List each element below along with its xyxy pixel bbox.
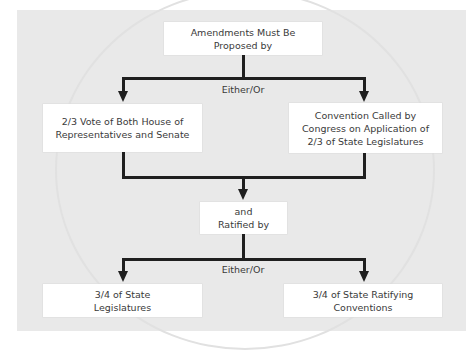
convention-called-box: Convention Called by Congress on Applica… bbox=[289, 103, 442, 153]
congress-vote-text: 2/3 Vote of Both House of Representative… bbox=[56, 115, 190, 141]
arrow-down-icon bbox=[118, 271, 128, 282]
either-or-label-ratification: Either/Or bbox=[203, 264, 283, 275]
connector-proposal-horizontal bbox=[122, 77, 366, 80]
connector-ratify-horizontal bbox=[122, 258, 366, 261]
state-conventions-box: 3/4 of State Ratifying Conventions bbox=[284, 284, 442, 317]
convention-called-text: Convention Called by Congress on Applica… bbox=[302, 109, 429, 148]
state-conventions-text: 3/4 of State Ratifying Conventions bbox=[313, 288, 414, 314]
connector-merge-left-vertical bbox=[122, 152, 125, 179]
state-legislatures-box: 3/4 of State Legislatures bbox=[43, 284, 202, 317]
arrow-down-icon bbox=[359, 91, 369, 102]
arrow-down-icon bbox=[238, 189, 248, 200]
amendments-proposed-text: Amendments Must Be Proposed by bbox=[191, 26, 296, 52]
either-or-label-proposal: Either/Or bbox=[203, 84, 283, 95]
connector-merge-center-drop bbox=[242, 176, 245, 190]
amendments-proposed-box: Amendments Must Be Proposed by bbox=[164, 22, 322, 55]
connector-ratify-vertical bbox=[242, 234, 245, 260]
arrow-down-icon bbox=[118, 91, 128, 102]
ratified-by-text: and Ratified by bbox=[218, 205, 269, 231]
arrow-down-icon bbox=[359, 271, 369, 282]
ratified-by-box: and Ratified by bbox=[200, 202, 287, 234]
connector-top-vertical bbox=[242, 55, 245, 79]
congress-vote-box: 2/3 Vote of Both House of Representative… bbox=[43, 104, 202, 152]
state-legislatures-text: 3/4 of State Legislatures bbox=[94, 288, 151, 314]
